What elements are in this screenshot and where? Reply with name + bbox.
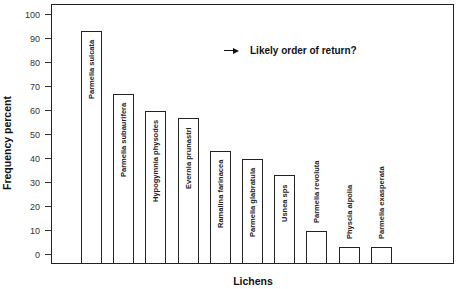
- bar-label: Hypogymnia physodes: [151, 119, 160, 201]
- y-tick: [45, 62, 51, 63]
- y-tick: [45, 38, 51, 39]
- bar-label: Parmelia revoluta: [312, 160, 321, 223]
- y-axis-label: Frequency percent: [1, 96, 13, 190]
- bar: [371, 247, 392, 264]
- bar: [306, 231, 327, 265]
- y-tick: [45, 230, 51, 231]
- annotation: Likely order of return?: [224, 45, 357, 56]
- y-tick: [45, 182, 51, 183]
- y-tick-label: 70: [6, 82, 40, 92]
- bar-label: Parmelia glabratula: [248, 167, 257, 236]
- y-tick: [45, 206, 51, 207]
- y-tick-label: 0: [6, 250, 40, 260]
- bar-label: Parmelia exasperata: [377, 167, 386, 240]
- bar-label: Parmelia subaurifera: [119, 102, 128, 176]
- y-tick: [45, 86, 51, 87]
- bar-label: Parmelia sulcata: [87, 40, 96, 99]
- y-tick-label: 10: [6, 226, 40, 236]
- bar: [339, 247, 360, 264]
- y-tick: [45, 14, 51, 15]
- y-tick-label: 80: [6, 58, 40, 68]
- y-tick-label: 90: [6, 34, 40, 44]
- x-axis-label: Lichens: [0, 275, 459, 287]
- y-tick: [45, 254, 51, 255]
- y-tick: [45, 110, 51, 111]
- bar-label: Ramalina farinacea: [216, 160, 225, 228]
- annotation-text: Likely order of return?: [250, 45, 357, 56]
- bar-label: Physcia aipolia: [345, 185, 354, 239]
- bar-chart: 0102030405060708090100 Parmelia sulcataP…: [0, 0, 459, 289]
- y-tick: [45, 158, 51, 159]
- y-tick-label: 100: [6, 10, 40, 20]
- bar-label: Usnea sps: [280, 185, 289, 223]
- y-tick: [45, 134, 51, 135]
- y-tick-label: 20: [6, 202, 40, 212]
- right-arrow-icon: [224, 48, 239, 54]
- bar-label: Evernia prunastri: [184, 127, 193, 189]
